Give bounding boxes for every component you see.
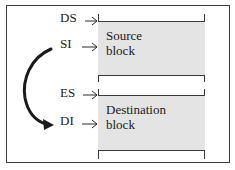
si-to-di-curved-arrow-icon: [24, 49, 54, 130]
es-pointer-arrow-icon: [83, 91, 97, 99]
si-pointer-arrow-icon: [82, 43, 97, 51]
di-pointer-arrow-icon: [82, 120, 97, 128]
arrows-layer: [0, 0, 235, 170]
ds-pointer-arrow-icon: [85, 17, 97, 25]
